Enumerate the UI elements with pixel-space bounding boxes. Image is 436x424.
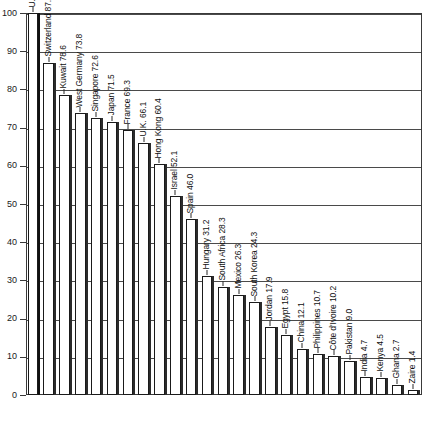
bar-group[interactable]: Jordan 17.9: [265, 13, 276, 395]
bar-value-tick: [365, 371, 366, 376]
bar-value-tick: [111, 116, 112, 121]
y-tick-label-0: 0: [0, 391, 17, 400]
bar-value-tick: [96, 112, 97, 117]
bar-value-tick: [381, 372, 382, 377]
bar-label: Jordan 17.9: [265, 277, 274, 321]
bar-value-tick: [222, 281, 223, 286]
y-tick-label-90: 90: [0, 47, 17, 56]
bar-group[interactable]: Kenya 4.5: [376, 13, 387, 395]
bar-group[interactable]: India 4.7: [360, 13, 371, 395]
bar-label: India 4.7: [360, 339, 369, 371]
bar-group[interactable]: Spain 46.0: [186, 13, 197, 395]
bar-value-tick: [317, 348, 318, 353]
bar-group[interactable]: Côte d'Ivoire 10.2: [328, 13, 339, 395]
bar-value-tick: [270, 321, 271, 326]
bar[interactable]: [170, 196, 181, 395]
bar-group[interactable]: Hong Kong 60.4: [154, 13, 165, 395]
bar-label: U.S. 100: [28, 0, 37, 7]
bar-label: Côte d'Ivoire 10.2: [329, 285, 338, 350]
bar-group[interactable]: Philippines 10.7: [313, 13, 324, 395]
bar-value-tick: [254, 296, 255, 301]
bar-group[interactable]: Kuwait 78.6: [59, 13, 70, 395]
bar-value-tick: [397, 379, 398, 384]
bar-label: Kenya 4.5: [376, 334, 385, 371]
bar-label: Kuwait 78.6: [59, 45, 68, 88]
bar-group[interactable]: Switzerland 87.0: [43, 13, 54, 395]
bar-group[interactable]: South Africa 28.3: [218, 13, 229, 395]
bar[interactable]: [59, 95, 70, 395]
bar-group[interactable]: Pakistan 9.0: [344, 13, 355, 395]
bar-group[interactable]: Japan 71.5: [107, 13, 118, 395]
bar[interactable]: [202, 276, 213, 395]
bar[interactable]: [91, 118, 102, 395]
bar-label: South Africa 28.3: [218, 218, 227, 281]
y-tick-label-70: 70: [0, 123, 17, 132]
bar-label: West Germany 73.8: [75, 33, 84, 107]
bar-value-tick: [302, 343, 303, 348]
y-tick-label-60: 60: [0, 161, 17, 170]
bar[interactable]: [249, 302, 260, 395]
bar-group[interactable]: Israel 52.1: [170, 13, 181, 395]
bar-value-tick: [412, 384, 413, 389]
bar-group[interactable]: West Germany 73.8: [75, 13, 86, 395]
bar-group[interactable]: U.K. 66.1: [138, 13, 149, 395]
bar-group[interactable]: Hungary 31.2: [202, 13, 213, 395]
bar[interactable]: [123, 130, 134, 395]
bar[interactable]: [360, 377, 371, 395]
bar[interactable]: [218, 287, 229, 395]
bar[interactable]: [281, 335, 292, 395]
bar[interactable]: [43, 63, 54, 395]
bar-label: Zaire 1.4: [408, 351, 417, 384]
bar-value-tick: [286, 329, 287, 334]
bar[interactable]: [392, 385, 403, 395]
bar-label: Philippines 10.7: [313, 290, 322, 348]
bar[interactable]: [233, 295, 244, 395]
bar-value-tick: [238, 289, 239, 294]
bar-label: China 12.1: [297, 303, 306, 343]
bar-label: U.K. 66.1: [139, 102, 148, 137]
y-tick-0: [20, 395, 26, 396]
bar[interactable]: [28, 13, 39, 395]
bar[interactable]: [376, 378, 387, 395]
bar-group[interactable]: Mexico 26.3: [233, 13, 244, 395]
bar[interactable]: [297, 349, 308, 395]
bar[interactable]: [75, 113, 86, 395]
bar-group[interactable]: Singapore 72.6: [91, 13, 102, 395]
bar-group[interactable]: France 69.3: [123, 13, 134, 395]
bar[interactable]: [107, 122, 118, 395]
bar[interactable]: [265, 327, 276, 395]
bar-value-tick: [48, 57, 49, 62]
bar[interactable]: [138, 143, 149, 396]
bar[interactable]: [154, 164, 165, 395]
bar-group[interactable]: Ghana 2.7: [392, 13, 403, 395]
bar-label: Japan 71.5: [107, 75, 116, 116]
bar-group[interactable]: Zaire 1.4: [408, 13, 419, 395]
bar-label: Spain 46.0: [186, 174, 195, 214]
bar-group[interactable]: South Korea 24.3: [249, 13, 260, 395]
bar-group[interactable]: China 12.1: [297, 13, 308, 395]
bar-value-tick: [333, 350, 334, 355]
bar[interactable]: [344, 361, 355, 395]
bar-label: Ghana 2.7: [392, 340, 401, 379]
bar-value-tick: [64, 89, 65, 94]
bar-value-tick: [143, 137, 144, 142]
bar-value-tick: [349, 355, 350, 360]
bar-label: Singapore 72.6: [91, 55, 100, 111]
bar-label: South Korea 24.3: [250, 232, 259, 297]
bar-label: Hong Kong 60.4: [154, 98, 163, 158]
bar-label: Switzerland 87.0: [44, 0, 53, 57]
bar[interactable]: [186, 219, 197, 395]
bar[interactable]: [313, 354, 324, 395]
bar-value-tick: [159, 158, 160, 163]
y-tick-label-100: 100: [0, 9, 17, 18]
y-tick-label-30: 30: [0, 276, 17, 285]
bar-value-tick: [32, 7, 33, 12]
bar[interactable]: [328, 356, 339, 395]
y-tick-label-80: 80: [0, 85, 17, 94]
bar-value-tick: [127, 124, 128, 129]
bar-group[interactable]: Egypt 15.8: [281, 13, 292, 395]
bar-group[interactable]: U.S. 100: [28, 13, 39, 395]
y-tick-label-10: 10: [0, 352, 17, 361]
bar-label: Mexico 26.3: [234, 244, 243, 289]
bar[interactable]: [408, 390, 419, 395]
